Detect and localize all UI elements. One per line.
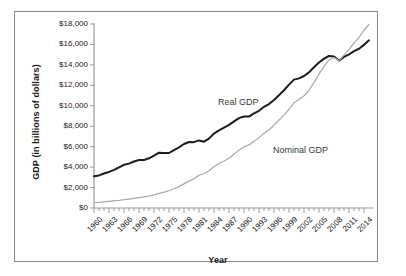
plot-area: [15, 12, 379, 263]
chart-figure: GDP (in billions of dollars) Year $0$2,0…: [0, 0, 406, 276]
chart-frame: GDP (in billions of dollars) Year $0$2,0…: [14, 11, 378, 262]
